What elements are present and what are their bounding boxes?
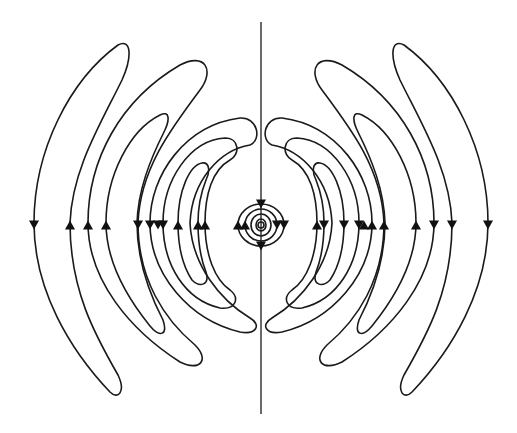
- field-line-right-1: [393, 44, 488, 396]
- left-field-lines: [34, 44, 257, 396]
- arrow-right-3: [429, 221, 439, 230]
- near-field-arrow-4: [272, 221, 282, 230]
- arrow-right-9: [339, 221, 349, 230]
- dipole-radiation-diagram: [0, 0, 517, 433]
- arrow-left-4: [101, 221, 111, 230]
- arrow-right-4: [411, 221, 421, 230]
- arrow-left-11: [200, 221, 210, 230]
- field-line-left-1: [34, 44, 129, 396]
- arrow-left-5: [133, 221, 143, 230]
- arrow-left-9: [173, 221, 183, 230]
- right-field-lines: [265, 44, 488, 396]
- arrow-right-2: [447, 221, 457, 230]
- arrow-right-6: [367, 221, 377, 230]
- arrow-left-3: [83, 221, 93, 230]
- arrow-left-6: [145, 221, 155, 230]
- near-field-arrow-3: [240, 221, 250, 230]
- arrow-right-1: [483, 221, 493, 230]
- arrow-right-5: [379, 221, 389, 230]
- arrow-left-1: [29, 221, 39, 230]
- arrow-left-2: [65, 221, 75, 230]
